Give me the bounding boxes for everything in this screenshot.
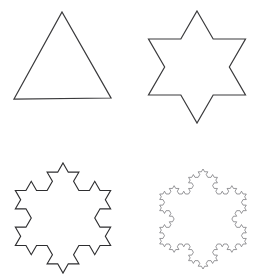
koch-snowflake-figure: [0, 0, 259, 280]
stage-0-triangle-outline: [14, 12, 111, 99]
stage-2-snowflake-canvas: [0, 140, 130, 280]
stage-3-snowflake-outline: [160, 169, 247, 269]
stage-3-snowflake: [130, 140, 259, 280]
stage-0-triangle-canvas: [0, 0, 130, 140]
stage-1-hexagram-canvas: [130, 0, 259, 140]
stage-1-hexagram: [130, 0, 259, 140]
stage-0-triangle: [0, 0, 130, 140]
stage-2-snowflake-outline: [15, 163, 110, 273]
stage-2-snowflake: [0, 140, 130, 280]
stage-3-snowflake-canvas: [130, 140, 259, 280]
stage-1-hexagram-outline: [149, 11, 246, 123]
